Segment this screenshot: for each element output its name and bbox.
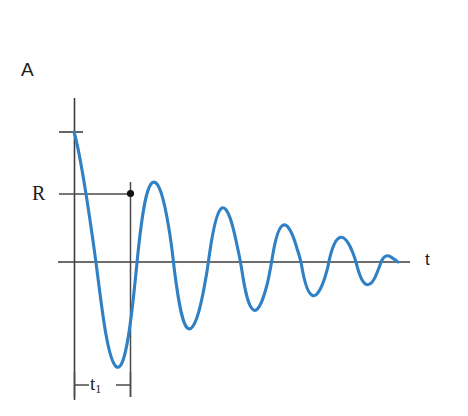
amplitude-marker-dot (127, 190, 134, 197)
amplitude-ratio-label: R (32, 183, 45, 203)
amplitude-axis-label: A (21, 60, 34, 79)
time-axis-label: t (425, 251, 430, 268)
damped-oscillation-curve (74, 132, 398, 367)
damped-oscillation-figure: A t R t1 (0, 0, 468, 416)
period-label-subscript: 1 (95, 382, 101, 396)
plot-canvas (0, 0, 468, 416)
period-bracket-label: t1 (90, 374, 101, 393)
